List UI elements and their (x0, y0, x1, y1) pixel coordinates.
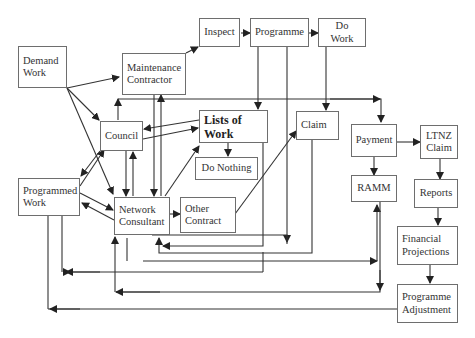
node-network-consultant: Network Consultant (114, 197, 170, 235)
node-do-work: Do Work (318, 18, 366, 47)
node-programmed-work: Programmed Work (18, 178, 80, 216)
node-lists-of-work: Lists of Work (199, 110, 268, 143)
node-demand-work: Demand Work (18, 46, 67, 88)
node-claim: Claim (296, 111, 339, 140)
node-payment: Payment (351, 124, 397, 157)
node-ltnz-claim: LTNZ Claim (420, 125, 458, 159)
node-ramm: RAMM (351, 175, 397, 202)
node-do-nothing: Do Nothing (195, 157, 258, 180)
node-programme: Programme (250, 18, 309, 47)
node-inspect: Inspect (199, 18, 240, 47)
node-financial-projections: Financial Projections (397, 226, 458, 265)
node-other-contract: Other Contract (180, 197, 236, 233)
node-council: Council (100, 121, 143, 151)
node-reports: Reports (414, 179, 458, 208)
node-maintenance-contractor: Maintenance Contractor (122, 53, 186, 95)
node-programme-adjustment: Programme Adjustment (397, 284, 458, 323)
